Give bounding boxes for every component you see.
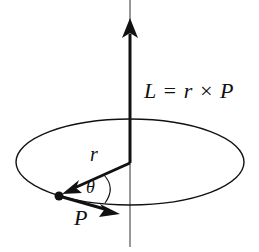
theta-angle-arc bbox=[104, 175, 110, 203]
p-vector-arrowhead-icon bbox=[99, 204, 120, 217]
momentum-label: P bbox=[74, 205, 87, 231]
equation-label: L = r × P bbox=[144, 78, 234, 104]
r-vector-shaft bbox=[72, 163, 130, 189]
angular-momentum-diagram: L = r × P r θ P bbox=[0, 0, 259, 252]
theta-label: θ bbox=[86, 177, 95, 198]
radius-label: r bbox=[90, 143, 98, 166]
